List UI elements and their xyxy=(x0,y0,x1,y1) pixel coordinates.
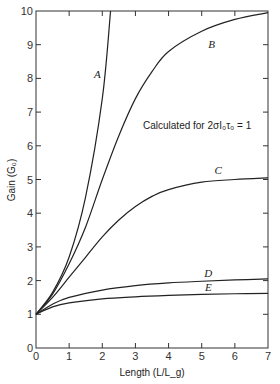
curves xyxy=(36,11,268,314)
curve-label-c: C xyxy=(215,164,223,176)
y-tick-label: 8 xyxy=(27,72,33,84)
x-tick-label: 4 xyxy=(166,350,172,362)
y-tick-label: 2 xyxy=(27,275,33,287)
y-tick-label: 7 xyxy=(27,106,33,118)
x-tick-label: 7 xyxy=(265,350,271,362)
curve-b xyxy=(36,13,268,315)
x-tick-label: 6 xyxy=(232,350,238,362)
curve-label-b: B xyxy=(208,38,215,50)
plot-frame: 01234567012345678910 xyxy=(21,5,271,362)
curve-labels: ABCDE xyxy=(93,38,223,293)
y-tick-label: 6 xyxy=(27,140,33,152)
curve-a xyxy=(36,11,111,314)
gain-vs-length-chart: 01234567012345678910 ABCDE Calculated fo… xyxy=(0,0,280,384)
y-axis-label: Gain (G₀) xyxy=(6,159,17,202)
x-tick-label: 3 xyxy=(132,350,138,362)
y-tick-label: 5 xyxy=(27,174,33,186)
x-tick-label: 1 xyxy=(66,350,72,362)
y-tick-label: 3 xyxy=(27,241,33,253)
x-tick-label: 5 xyxy=(199,350,205,362)
curve-label-e: E xyxy=(204,281,212,293)
y-tick-label: 4 xyxy=(27,207,33,219)
y-tick-label: 10 xyxy=(21,5,33,17)
x-axis-label: Length (L/L_g) xyxy=(119,367,184,378)
y-tick-label: 9 xyxy=(27,39,33,51)
y-tick-label: 1 xyxy=(27,308,33,320)
curve-label-d: D xyxy=(203,267,212,279)
y-tick-label: 0 xyxy=(27,342,33,354)
curve-label-a: A xyxy=(93,68,101,80)
x-tick-label: 2 xyxy=(99,350,105,362)
annotation: Calculated for 2σI₀τ₀ = 1 xyxy=(143,120,252,131)
x-tick-label: 0 xyxy=(33,350,39,362)
